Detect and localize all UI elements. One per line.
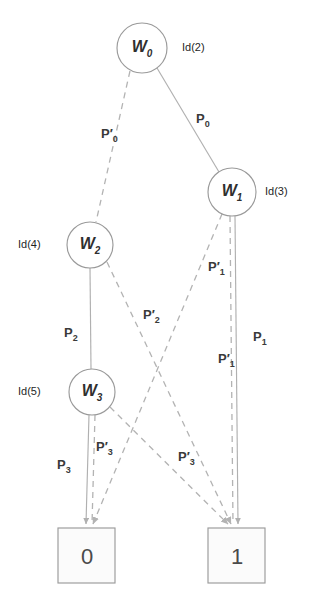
edge-label-p2: P2 <box>64 326 78 343</box>
edge-p0 <box>157 68 219 172</box>
edge-label-p1-prime-lower: P′1 <box>218 352 235 369</box>
edge-p3 <box>86 415 89 524</box>
edge-p2 <box>90 268 91 369</box>
edge-label-p0-prime: P′0 <box>101 127 118 144</box>
edge-label-p1-prime-upper: P′1 <box>208 260 225 277</box>
node-label-w0: W0 <box>132 39 153 58</box>
diagram-canvas: W0 W1 W2 W3 Id(2) Id(3) Id(4) Id(5) P0 P… <box>0 0 318 611</box>
terminal-label-1: 1 <box>231 546 243 568</box>
id-annotation-w2: Id(4) <box>18 239 41 250</box>
edge-label-p0: P0 <box>196 112 210 129</box>
node-label-w2: W2 <box>80 236 101 255</box>
edge-p1 <box>235 216 238 524</box>
edge-label-p1: P1 <box>253 330 267 347</box>
graph-svg <box>0 0 318 611</box>
edge-label-p3-prime-left: P′3 <box>96 440 113 457</box>
edge-p1-prime-right <box>230 216 233 524</box>
id-annotation-w0: Id(2) <box>182 42 205 53</box>
edge-p2-prime <box>107 262 231 524</box>
edge-label-p3-prime-right: P′3 <box>178 450 195 467</box>
terminal-label-0: 0 <box>81 546 93 568</box>
edge-p1-prime-left <box>93 214 222 524</box>
edge-p0-prime <box>96 71 130 222</box>
edge-label-p3: P3 <box>57 458 71 475</box>
node-label-w3: W3 <box>82 383 103 402</box>
id-annotation-w3: Id(5) <box>18 386 41 397</box>
node-label-w1: W1 <box>222 183 243 202</box>
edge-p3-prime-right <box>110 407 228 524</box>
edge-label-p2-prime: P′2 <box>143 308 160 325</box>
edge-p3-prime-left <box>92 415 95 524</box>
id-annotation-w1: Id(3) <box>265 186 288 197</box>
